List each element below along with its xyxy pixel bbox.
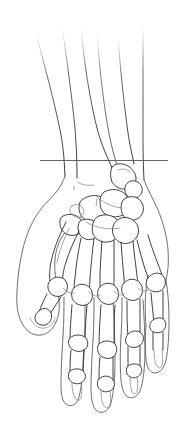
index-pip-joint: [69, 335, 88, 351]
metacarpal-1-head: [48, 277, 68, 296]
ulnar-head-outline: [125, 181, 142, 198]
metacarpal-2-head: [72, 284, 93, 305]
figure-root: The drawing contains no printed text, nu…: [0, 0, 191, 424]
metacarpal-4-head: [122, 279, 143, 300]
ring-pip-joint: [126, 331, 144, 347]
triquetrum-outline: [121, 197, 143, 221]
index-dip-joint: [68, 369, 85, 384]
hand-skeleton-drawing: [0, 0, 191, 424]
ring-dip-joint: [126, 364, 141, 378]
middle-pip-joint: [98, 341, 117, 358]
hamate-outline: [112, 217, 138, 243]
middle-dip-joint: [97, 376, 114, 392]
metacarpal-3-head: [98, 283, 119, 304]
little-pip-joint: [150, 318, 166, 333]
